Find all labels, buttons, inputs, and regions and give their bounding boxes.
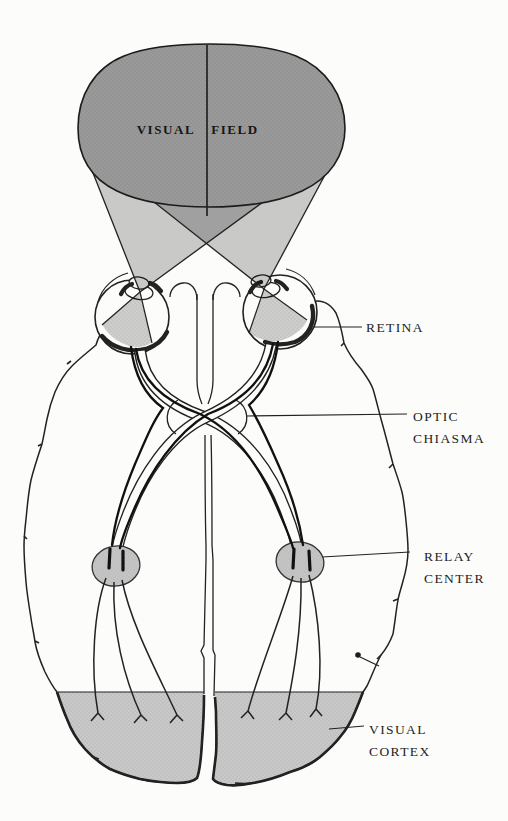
relay-center-label-line1: RELAY bbox=[424, 549, 475, 564]
visual-cortex-label-line2: CORTEX bbox=[369, 744, 431, 759]
visual-field-right-label: FIELD bbox=[211, 122, 259, 137]
relay-center-label-line2: CENTER bbox=[424, 571, 485, 586]
visual-cortex-label-line1: VISUAL bbox=[369, 722, 427, 737]
visual-field-left-label: VISUAL bbox=[137, 122, 196, 137]
visual-pathway-diagram: RETINA OPTIC CHIASMA RELAY CENTER VISUAL… bbox=[0, 0, 508, 821]
figure-page: RETINA OPTIC CHIASMA RELAY CENTER VISUAL… bbox=[0, 0, 508, 821]
optic-chiasma-label-line1: OPTIC bbox=[413, 409, 459, 424]
edge-marker-dot bbox=[355, 652, 361, 658]
retina-label: RETINA bbox=[366, 320, 424, 335]
optic-chiasma-label-line2: CHIASMA bbox=[413, 431, 485, 446]
visual-field: VISUAL FIELD bbox=[78, 44, 345, 216]
